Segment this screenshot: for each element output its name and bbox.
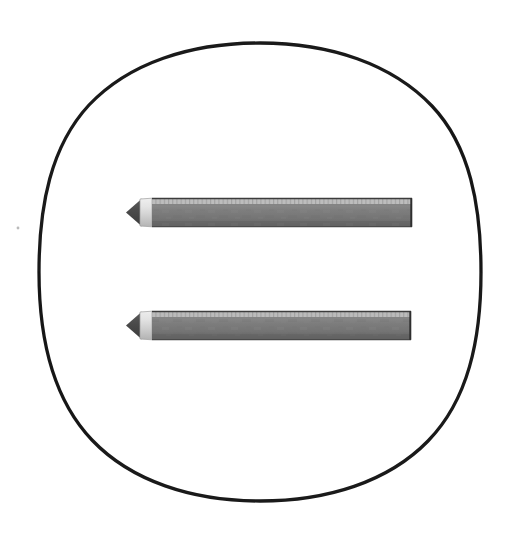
pencil-upper-wood-cone xyxy=(140,198,152,227)
pencil-lower-wood-cone xyxy=(140,311,152,340)
pencil-lower-hatching xyxy=(152,311,411,317)
pencil-upper xyxy=(126,198,412,227)
ink-speck xyxy=(17,227,20,230)
illustration-canvas: Equals sign drawn with two pencils xyxy=(0,0,518,547)
pencil-lower xyxy=(126,311,411,340)
hand-drawn-circle xyxy=(39,43,481,501)
figure-svg xyxy=(0,0,518,547)
circle-outline-path xyxy=(39,43,481,501)
pencil-upper-hatching xyxy=(152,198,412,204)
